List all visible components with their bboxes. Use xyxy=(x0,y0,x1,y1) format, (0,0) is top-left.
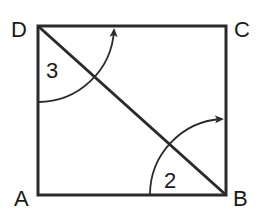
angle-label-2: 2 xyxy=(164,168,176,193)
square-diagram: D C A B 3 2 xyxy=(0,0,270,223)
angle-label-3: 3 xyxy=(46,58,58,83)
vertex-label-c: C xyxy=(234,17,250,42)
vertex-label-d: D xyxy=(11,17,27,42)
vertex-label-a: A xyxy=(14,186,29,211)
diagonal-db xyxy=(38,26,226,195)
vertex-label-b: B xyxy=(233,186,248,211)
